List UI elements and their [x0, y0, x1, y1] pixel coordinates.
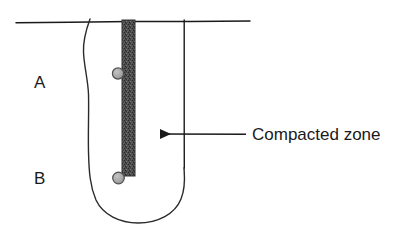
figure-canvas: A B Compacted zone	[0, 0, 413, 241]
soil-particle-marker-upper	[112, 68, 123, 79]
compacted-zone-band	[122, 20, 135, 176]
compacted-zone-diagram: A B Compacted zone	[0, 0, 413, 241]
soil-particle-marker-lower	[113, 172, 125, 184]
zone-label-b: B	[34, 169, 45, 188]
zone-label-a: A	[34, 73, 46, 92]
callout-label: Compacted zone	[252, 125, 381, 144]
